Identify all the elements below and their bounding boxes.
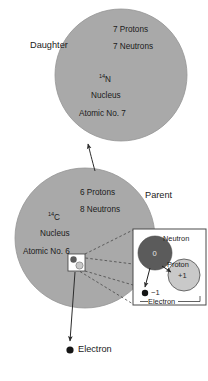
zoom-region-neutron-dot [70, 256, 76, 262]
emitted-electron-label: Electron [78, 345, 112, 354]
parent-neutrons-label: 8 Neutrons [80, 206, 120, 214]
inset-neutron-label: Neutron [163, 235, 189, 242]
inset-proton-charge: +1 [178, 272, 187, 280]
daughter-neutrons-label: 7 Neutrons [113, 43, 153, 51]
inset-neutron-charge: 0 [153, 250, 157, 258]
parent-atomic-no-label: Atomic No. 6 [23, 248, 70, 256]
emitted-electron-dot [66, 346, 73, 353]
inset-electron-charge: −1 [151, 289, 160, 297]
parent-isotope-label: 14C [48, 212, 60, 222]
daughter-isotope-label: 14N [99, 74, 111, 84]
daughter-atomic-no-label: Atomic No. 7 [79, 110, 126, 118]
parent-nucleus-label: Nucleus [40, 230, 70, 238]
daughter-isotope-symbol: N [105, 75, 111, 84]
inset-electron-dot [142, 290, 148, 296]
parent-role-label: Parent [145, 191, 172, 200]
daughter-role-label: Daughter [30, 41, 68, 50]
zoom-region-proton-dot [76, 262, 83, 269]
beta-decay-diagram: Daughter 7 Protons 7 Neutrons 14N Nucleu… [0, 0, 208, 381]
nucleon-zoom-region [68, 254, 85, 271]
parent-isotope-symbol: C [54, 213, 60, 222]
decay-arrow [88, 144, 95, 171]
parent-protons-label: 6 Protons [80, 189, 115, 197]
daughter-nucleus-label: Nucleus [91, 92, 121, 100]
inset-electron-label: Electron [148, 298, 175, 305]
inset-proton-label: Proton [167, 261, 189, 268]
daughter-protons-label: 7 Protons [113, 26, 148, 34]
